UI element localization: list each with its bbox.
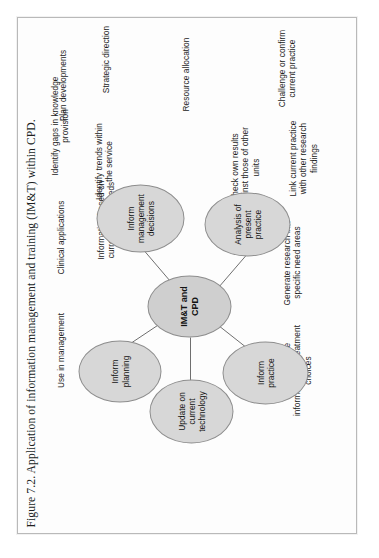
label-strategic-direction: Strategic direction <box>100 17 110 101</box>
node-inform-planning[interactable]: Inform planning <box>78 340 161 402</box>
diagram-canvas: Figure 7.2. Application of information m… <box>18 18 356 533</box>
node-update-on-current-technology[interactable]: Update on current technology <box>149 379 233 443</box>
label-use-in-management: Use in management <box>55 300 65 400</box>
node-imt-and-cpd[interactable]: IM&T and CPD <box>147 275 231 337</box>
label-clinical-applications: Clinical applications <box>55 187 65 287</box>
figure-page: Figure 7.2. Application of information m… <box>0 0 379 558</box>
node-analysis-of-present-practice[interactable]: Analysis of present practice <box>204 192 290 256</box>
label-plan-developments: Plan developments <box>57 43 67 127</box>
label-challenge-confirm: Challenge or confirm current practice <box>276 22 297 114</box>
label-identify-trends: Identify trends within the service <box>93 119 114 203</box>
label-resource-allocation: Resource allocation <box>180 18 190 130</box>
figure-frame: Figure 7.2. Application of information m… <box>17 17 357 534</box>
node-inform-management-decisions[interactable]: Inform management decisions <box>96 184 184 252</box>
node-inform-practice[interactable]: Inform practice <box>222 341 308 404</box>
label-link-current-practice: Link current practice with other researc… <box>287 118 318 198</box>
